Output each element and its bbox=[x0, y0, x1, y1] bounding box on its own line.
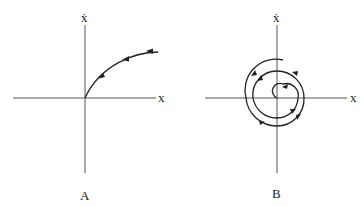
panel-b-x-axis-label: x bbox=[350, 90, 357, 105]
panel-b-caption: B bbox=[272, 186, 281, 201]
panel-b-arrow-3 bbox=[292, 71, 298, 76]
panel-a-caption: A bbox=[80, 188, 90, 203]
phase-portrait-figure: ẋ x A ẋ x B bbox=[0, 0, 364, 207]
panel-b-arrow-4 bbox=[282, 84, 288, 89]
panel-b-y-axis-label: ẋ bbox=[273, 10, 280, 25]
panel-a-x-axis-label: x bbox=[158, 90, 165, 105]
panel-b-arrow-7 bbox=[259, 120, 265, 125]
panel-a-y-axis-label: ẋ bbox=[81, 10, 88, 25]
panel-b-spiral-trajectory bbox=[245, 59, 304, 126]
panel-a-trajectory bbox=[85, 52, 158, 98]
panel-a: ẋ x A bbox=[13, 10, 165, 203]
panel-b-arrow-6 bbox=[296, 114, 301, 120]
panel-b: ẋ x B bbox=[205, 10, 357, 201]
panel-a-arrow-3 bbox=[97, 73, 105, 79]
